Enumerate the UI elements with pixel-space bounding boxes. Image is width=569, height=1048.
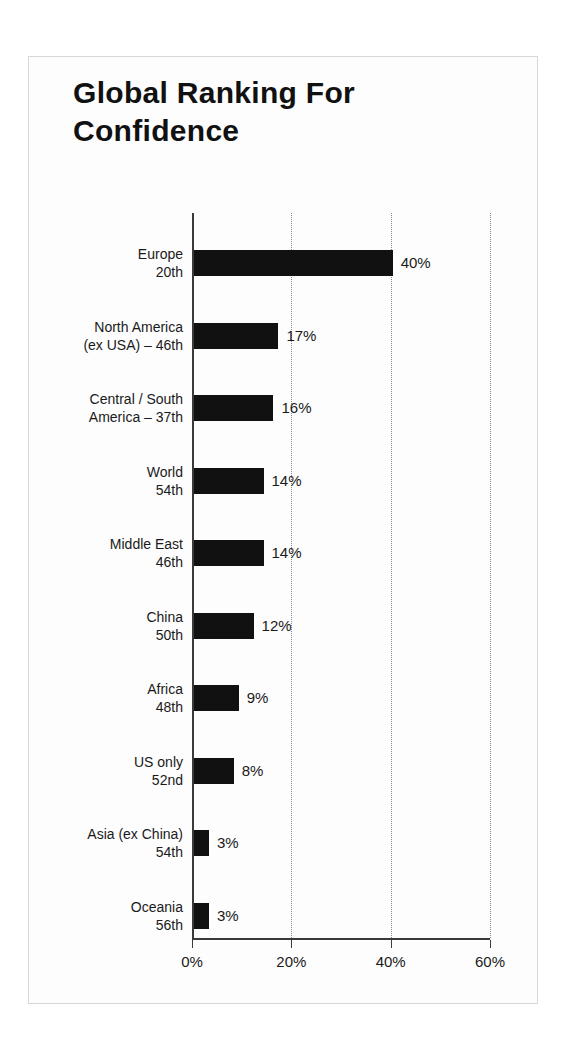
category-label: Europe 20th [13, 245, 183, 281]
bar-value-label: 9% [247, 685, 269, 711]
category-label: Asia (ex China) 54th [13, 825, 183, 861]
category-label: US only 52nd [13, 753, 183, 789]
bar [194, 758, 234, 784]
bar-value-label: 40% [401, 250, 431, 276]
x-tick-mark [192, 940, 193, 948]
x-tick-mark [391, 940, 392, 948]
gridline-60pct [490, 213, 491, 938]
x-tick-label: 40% [351, 953, 431, 970]
bar-value-label: 14% [272, 540, 302, 566]
x-tick-label: 60% [450, 953, 530, 970]
bar-value-label: 3% [217, 830, 239, 856]
bar [194, 468, 264, 494]
category-label-column: Europe 20thNorth America (ex USA) – 46th… [13, 213, 183, 938]
bar [194, 613, 254, 639]
category-label: North America (ex USA) – 46th [13, 318, 183, 354]
x-axis-line [192, 938, 490, 940]
bar [194, 395, 273, 421]
x-tick-label: 20% [251, 953, 331, 970]
x-tick-mark [490, 940, 491, 948]
bar [194, 323, 278, 349]
bar [194, 830, 209, 856]
bar-value-label: 16% [281, 395, 311, 421]
bar [194, 250, 393, 276]
x-tick-mark [291, 940, 292, 948]
bar-value-label: 3% [217, 903, 239, 929]
category-label: Middle East 46th [13, 535, 183, 571]
gridline-40pct [391, 213, 392, 938]
bar [194, 903, 209, 929]
x-tick-label: 0% [152, 953, 232, 970]
bar-value-label: 14% [272, 468, 302, 494]
category-label: Oceania 56th [13, 898, 183, 934]
category-label: World 54th [13, 463, 183, 499]
bar [194, 540, 264, 566]
bar [194, 685, 239, 711]
bar-value-label: 17% [286, 323, 316, 349]
category-label: Central / South America – 37th [13, 390, 183, 426]
category-label: Africa 48th [13, 680, 183, 716]
bar-value-label: 12% [262, 613, 292, 639]
category-label: China 50th [13, 608, 183, 644]
plot-area: 0%20%40%60%40%17%16%14%14%12%9%8%3%3% [192, 213, 490, 938]
bar-value-label: 8% [242, 758, 264, 784]
chart-title: Global Ranking For Confidence [73, 74, 473, 150]
chart-page: Global Ranking For Confidence Europe 20t… [0, 0, 569, 1048]
